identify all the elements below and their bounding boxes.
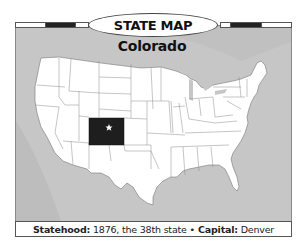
colorado-highlight bbox=[89, 118, 124, 145]
title-badge: STATE MAP bbox=[88, 13, 218, 37]
statehood-label: Statehood: bbox=[33, 224, 90, 235]
bar-segment bbox=[230, 22, 263, 28]
capital-value: Denver bbox=[238, 224, 274, 235]
state-name: Colorado bbox=[0, 38, 304, 54]
us-map bbox=[16, 26, 292, 236]
caption-bar: Statehood: 1876, the 38th state • Capita… bbox=[15, 221, 292, 237]
page-title: STATE MAP bbox=[114, 18, 192, 33]
bar-segment bbox=[261, 22, 292, 28]
bar-segment bbox=[75, 22, 89, 28]
statehood-value: 1876, the 38th state bbox=[90, 224, 189, 235]
bar-segment bbox=[45, 22, 77, 28]
map-frame bbox=[15, 25, 292, 236]
capital-label: Capital: bbox=[195, 224, 238, 235]
bar-segment bbox=[15, 22, 47, 28]
